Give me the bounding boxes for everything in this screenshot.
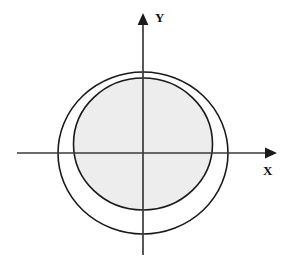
annulus-figure xyxy=(0,0,291,265)
x-axis-label: X xyxy=(263,164,272,177)
arrow-up-icon xyxy=(138,13,149,25)
arrow-right-icon xyxy=(265,148,277,159)
y-axis-label: Y xyxy=(155,11,164,24)
diagram-canvas: Y X xyxy=(0,0,291,265)
